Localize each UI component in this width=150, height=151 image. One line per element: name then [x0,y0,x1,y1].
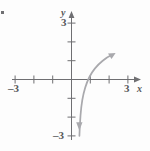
y-axis-tick-label-3: 3 [61,17,67,28]
x-axis-tick-label-3: 3 [124,83,130,94]
chart-canvas [0,0,150,151]
curve-arrowhead-lower [76,122,82,130]
chart-figure: y 3 –3 –3 3 x [0,0,150,151]
x-axis-arrowhead [134,77,141,83]
x-axis-tick-label-neg3: –3 [8,83,19,94]
x-axis [12,77,141,83]
data-series-logarithmic-curve [76,53,115,136]
y-axis-arrowhead [69,11,75,18]
y-axis [69,11,75,140]
x-axis-label: x [137,84,142,94]
curve-path [79,55,112,136]
y-axis-tick-label-neg3: –3 [53,130,64,141]
